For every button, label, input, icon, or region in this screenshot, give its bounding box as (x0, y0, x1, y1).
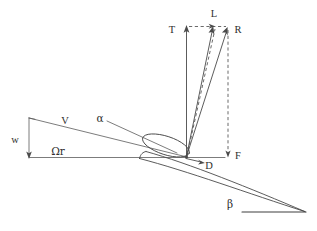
axial-velocity-label: w (11, 134, 19, 145)
drag-arrowhead (198, 160, 205, 165)
pitch-angle-label: β (227, 198, 233, 210)
resultant-shaft (187, 33, 227, 157)
diagram-labels: T L R D F V w Ωr α β (11, 8, 241, 210)
resultant-diagonal-dashed (187, 29, 215, 156)
blade-element-diagram: T L R D F V w Ωr α β (0, 0, 317, 231)
blade-upper-surface (146, 152, 305, 212)
blade-section-ellipse (140, 129, 192, 162)
drag-vector (186, 159, 205, 165)
resultant-vector (187, 27, 228, 157)
thrust-vector (184, 25, 190, 157)
drag-label: D (205, 160, 213, 171)
axial-velocity-vector (26, 118, 32, 159)
resultant-arrowhead (222, 27, 228, 36)
tangential-velocity-label: Ωr (51, 145, 66, 157)
alpha-leader-line (107, 121, 177, 153)
resultant-label: R (234, 24, 241, 35)
diagram-canvas: T L R D F V w Ωr α β (0, 0, 317, 231)
lift-label: L (211, 8, 217, 19)
force-point-arrowhead (225, 151, 230, 158)
dashed-construction-group (187, 24, 231, 158)
blade-section-group (140, 129, 306, 211)
alpha-leader-group (107, 121, 177, 153)
force-vectors-group (184, 25, 228, 165)
angle-of-attack-label: α (96, 112, 103, 124)
blade-lower-surface (140, 159, 306, 212)
relative-velocity-label: V (61, 115, 69, 126)
lift-shaft (187, 32, 213, 157)
lift-vector (187, 26, 215, 157)
force-origin-node (185, 156, 188, 159)
force-label: F (235, 150, 241, 161)
thrust-label: T (169, 24, 176, 35)
